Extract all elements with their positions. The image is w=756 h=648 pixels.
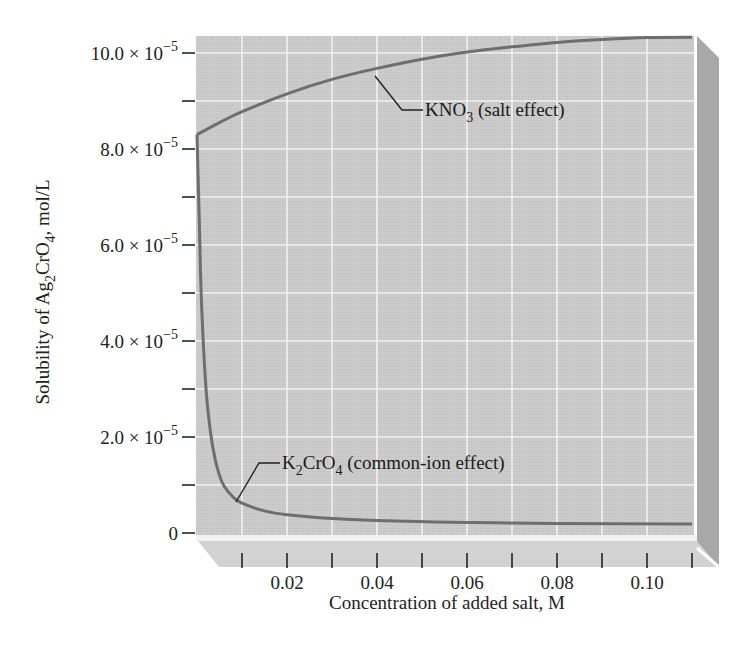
x-tick-label: 0.06	[450, 572, 483, 593]
solubility-chart: 02.0 × 10−54.0 × 10−56.0 × 10−58.0 × 10−…	[0, 0, 756, 648]
y-tick-label: 8.0 × 10−5	[100, 135, 178, 160]
y-tick-label: 6.0 × 10−5	[100, 231, 178, 256]
y-axis: 02.0 × 10−54.0 × 10−56.0 × 10−58.0 × 10−…	[91, 39, 195, 544]
x-tick-label: 0.10	[630, 572, 663, 593]
plot-bottom-face	[198, 541, 719, 567]
x-axis-title: Concentration of added salt, M	[329, 592, 565, 613]
y-axis-title: Solubility of Ag2CrO4, mol/L	[32, 179, 58, 404]
x-tick-label: 0.02	[270, 572, 303, 593]
plot-side-face	[697, 36, 719, 567]
y-tick-label: 0	[169, 523, 179, 544]
y-tick-label: 2.0 × 10−5	[100, 423, 178, 448]
x-tick-label: 0.04	[360, 572, 394, 593]
x-tick-label: 0.08	[540, 572, 573, 593]
y-tick-label: 10.0 × 10−5	[91, 39, 178, 64]
y-tick-label: 4.0 × 10−5	[100, 327, 178, 352]
